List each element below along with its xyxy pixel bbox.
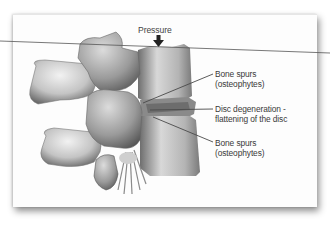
label-disc-degeneration: Disc degeneration - flattening of the di… (215, 104, 287, 124)
label-bone-spurs-lower: Bone spurs (osteophytes) (215, 138, 264, 158)
label-bone-spurs-upper: Bone spurs (osteophytes) (215, 69, 264, 89)
label-pressure: Pressure (138, 25, 172, 35)
